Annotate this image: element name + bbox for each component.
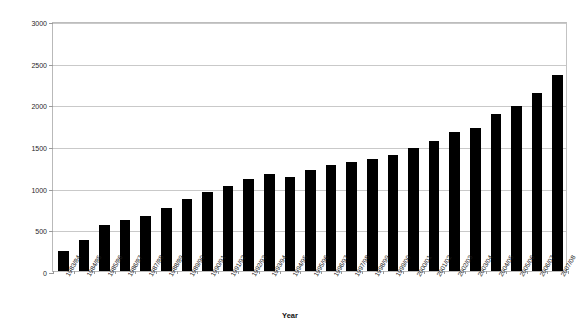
bar (491, 114, 502, 272)
bar (182, 199, 193, 271)
y-tick-label: 1000 (7, 186, 47, 193)
y-tick-label: 2500 (7, 61, 47, 68)
x-axis-title: Year (0, 311, 580, 320)
y-tick-label: 3000 (7, 20, 47, 27)
bar-chart: Membership totals 0500100015002000250030… (0, 0, 580, 335)
bar (552, 75, 563, 271)
bar (326, 165, 337, 271)
bar (120, 220, 131, 271)
bar (388, 155, 399, 271)
bar (367, 159, 378, 271)
bar (140, 216, 151, 271)
bar (346, 162, 357, 271)
bar (99, 225, 110, 271)
bars-group (53, 23, 566, 271)
plot-area: 050010001500200025003000 (52, 22, 567, 272)
bar (429, 141, 440, 271)
y-tick-label: 500 (7, 228, 47, 235)
y-tick-label: 2000 (7, 103, 47, 110)
bar (511, 106, 522, 271)
bar (470, 128, 481, 271)
bar (449, 132, 460, 271)
y-tick-label: 0 (7, 270, 47, 277)
y-tick-label: 1500 (7, 145, 47, 152)
bar (408, 148, 419, 271)
bar (532, 93, 543, 271)
x-axis-labels: 1983/841984/851985/861986/871987/881988/… (52, 274, 567, 314)
bar (161, 208, 172, 271)
